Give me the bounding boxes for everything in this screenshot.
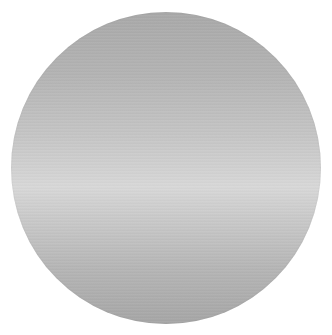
silver-disc [11,12,321,324]
brushed-metal-texture [11,12,321,324]
